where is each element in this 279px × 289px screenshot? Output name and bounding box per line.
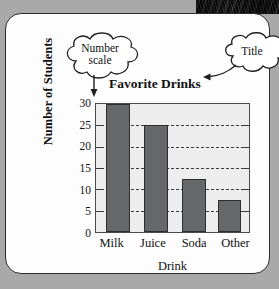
y-tick-label: 15 <box>80 162 92 174</box>
callout-arrow-head <box>203 74 211 81</box>
bar-milk <box>106 104 130 232</box>
axis-tick <box>243 211 249 212</box>
bar-soda <box>182 179 206 232</box>
x-tick-label-other: Other <box>215 236 256 251</box>
axis-tick <box>243 147 249 148</box>
plot-area <box>95 103 250 233</box>
axis-tick <box>96 147 102 148</box>
axis-tick <box>96 189 102 190</box>
x-axis-tick-labels: Milk Juice Soda Other <box>91 236 256 251</box>
bar-juice <box>144 125 168 232</box>
callout-title: Title <box>219 32 279 72</box>
callout-number-scale: Number scale <box>58 31 142 79</box>
bar-other <box>218 200 242 232</box>
callout-arrow-line <box>207 65 236 77</box>
cloud-shape <box>226 33 279 72</box>
callout-arrow-head <box>91 89 98 97</box>
axis-tick <box>243 168 249 169</box>
axis-tick <box>96 211 102 212</box>
photo-fragment <box>196 0 279 14</box>
x-axis-title: Drink <box>95 259 250 274</box>
y-tick-label: 25 <box>80 119 92 131</box>
x-tick-label-soda: Soda <box>174 236 215 251</box>
y-tick-label: 20 <box>80 140 92 152</box>
axis-tick <box>243 125 249 126</box>
cloud-shape <box>67 33 137 78</box>
x-tick-label-juice: Juice <box>132 236 173 251</box>
x-tick-label-milk: Milk <box>91 236 132 251</box>
axis-tick <box>243 189 249 190</box>
axis-tick <box>96 168 102 169</box>
axis-tick <box>96 125 102 126</box>
y-tick-label: 10 <box>80 184 92 196</box>
y-axis-tick-labels: 30 25 20 15 10 5 0 <box>62 103 91 233</box>
y-tick-label: 5 <box>85 205 91 217</box>
worksheet-card: Favorite Drinks Number of Students 30 25… <box>5 13 270 274</box>
y-axis-title: Number of Students <box>41 22 56 162</box>
